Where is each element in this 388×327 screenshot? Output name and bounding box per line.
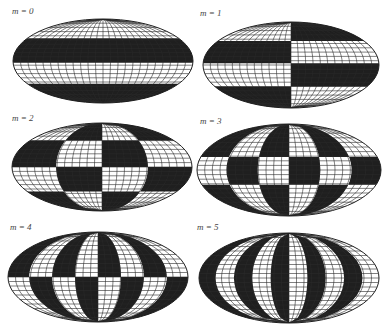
panel-m1 bbox=[198, 22, 383, 108]
harmonics-figure: m = 0 m = 1 m = 2 m = 3 m = 4 m = 5 bbox=[0, 0, 388, 327]
panel-m5 bbox=[194, 233, 379, 323]
label-m5: m = 5 bbox=[197, 222, 219, 232]
panel-m0 bbox=[8, 19, 198, 103]
panel-m3 bbox=[196, 124, 386, 216]
label-m3: m = 3 bbox=[200, 116, 222, 126]
label-m4: m = 4 bbox=[10, 222, 32, 232]
panel-m2 bbox=[7, 123, 197, 211]
panel-m4 bbox=[3, 232, 193, 322]
label-m0: m = 0 bbox=[12, 6, 34, 16]
label-m2: m = 2 bbox=[12, 113, 34, 123]
harmonics-svg bbox=[0, 0, 388, 327]
label-m1: m = 1 bbox=[200, 8, 222, 18]
